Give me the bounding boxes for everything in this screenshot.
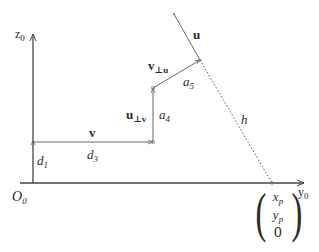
a4-label: a4 xyxy=(159,108,170,124)
vector-u-perp-v-label: u⊥v xyxy=(126,108,146,124)
h-label: h xyxy=(241,113,248,126)
origin-label: O0 xyxy=(12,190,27,206)
vector-u-label: u xyxy=(193,28,200,41)
a5-label: a5 xyxy=(183,75,194,91)
vector-v-label: v xyxy=(89,126,96,139)
d1-label: d1 xyxy=(37,154,48,170)
d3-label: d3 xyxy=(87,148,98,164)
point-p-vector: ( xp yp 0 ) xyxy=(258,186,298,244)
z0-axis-label: z0 xyxy=(15,28,25,43)
u-endpoint xyxy=(173,13,175,15)
right-paren: ) xyxy=(292,186,303,240)
distance-h xyxy=(200,60,272,183)
vector-v-perp-u-label: v⊥u xyxy=(148,59,168,75)
